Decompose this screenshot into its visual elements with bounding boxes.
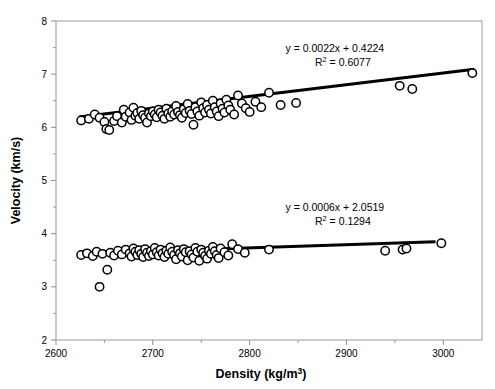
r-value: = 0.1294 — [327, 215, 371, 227]
data-point — [257, 103, 265, 111]
data-point — [230, 110, 238, 118]
data-point — [292, 99, 300, 107]
x-axis-title: Density (kg/m3) — [216, 366, 307, 381]
x-tick-label: 2900 — [335, 348, 358, 359]
chart-figure: 260027002800290030002345678Velocity (km/… — [0, 0, 495, 389]
data-point — [408, 85, 416, 93]
x-axis-title-close: ) — [302, 367, 306, 381]
scatter-plot: 260027002800290030002345678Velocity (km/… — [0, 0, 495, 389]
y-tick-label: 8 — [41, 16, 47, 27]
data-point — [105, 126, 113, 134]
y-tick-label: 2 — [41, 335, 47, 346]
x-axis-title-base: Density (kg/m — [216, 367, 298, 381]
data-point — [245, 108, 253, 116]
annotation-equation: y = 0.0022x + 0.4224 — [286, 42, 385, 54]
x-tick-label: 2700 — [142, 348, 165, 359]
data-point — [276, 101, 284, 109]
y-tick-label: 6 — [41, 122, 47, 133]
y-tick-label: 4 — [41, 228, 47, 239]
data-point — [95, 283, 103, 291]
data-point — [437, 239, 445, 247]
data-point — [396, 82, 404, 90]
x-tick-label: 3000 — [432, 348, 455, 359]
data-point — [77, 116, 85, 124]
data-point — [103, 266, 111, 274]
data-point — [402, 244, 410, 252]
data-point — [265, 89, 273, 97]
data-point — [381, 246, 389, 254]
data-point — [241, 249, 249, 257]
data-point — [189, 120, 197, 128]
chart-background — [0, 0, 495, 389]
data-point — [224, 251, 232, 259]
data-point — [468, 69, 476, 77]
annotation-equation: y = 0.0006x + 2.0519 — [286, 201, 385, 213]
data-point — [265, 245, 273, 253]
r-value: = 0.6077 — [327, 56, 371, 68]
y-tick-label: 5 — [41, 175, 47, 186]
y-tick-label: 7 — [41, 69, 47, 80]
y-tick-label: 3 — [41, 281, 47, 292]
y-axis-title: Velocity (km/s) — [9, 137, 23, 225]
x-tick-label: 2800 — [239, 348, 262, 359]
data-point — [234, 91, 242, 99]
x-tick-label: 2600 — [45, 348, 68, 359]
